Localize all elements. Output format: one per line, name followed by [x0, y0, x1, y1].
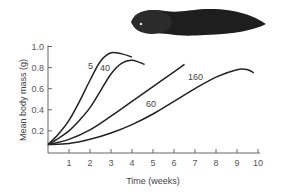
- y-axis-label: Mean body mass (g): [18, 59, 28, 141]
- y-tick-label: 1.0: [31, 42, 44, 52]
- curve-label: 160: [188, 72, 203, 82]
- x-tick-label: 8: [213, 158, 218, 168]
- curve-60: [48, 64, 185, 144]
- x-tick-label: 1: [66, 158, 71, 168]
- x-axis-label: Time (weeks): [126, 176, 180, 186]
- curve-label: 5: [88, 61, 93, 71]
- x-tick-label: 9: [234, 158, 239, 168]
- x-tick-label: 4: [129, 158, 134, 168]
- x-tick-label: 5: [150, 158, 155, 168]
- y-tick-label: 0.8: [31, 63, 44, 73]
- curve-label: 40: [100, 63, 110, 73]
- x-tick-label: 2: [87, 158, 92, 168]
- x-tick-label: 10: [253, 158, 263, 168]
- tadpole-illustration: [131, 9, 266, 36]
- x-tick-label: 6: [171, 158, 176, 168]
- x-tick-label: 3: [108, 158, 113, 168]
- chart: 0.20.40.60.81.012345678910Time (weeks)Me…: [0, 0, 281, 194]
- y-tick-label: 0.2: [31, 126, 44, 136]
- y-tick-label: 0.6: [31, 84, 44, 94]
- x-tick-label: 7: [192, 158, 197, 168]
- y-tick-label: 0.4: [31, 105, 44, 115]
- curve-label: 60: [146, 99, 156, 109]
